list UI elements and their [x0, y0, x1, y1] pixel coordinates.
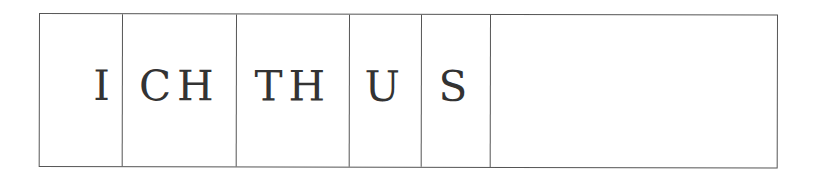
cell-s: S — [422, 15, 491, 167]
cell-text: U — [365, 61, 407, 110]
cell-u: U — [350, 15, 422, 167]
cell-th: TH — [237, 14, 350, 166]
cell-empty — [491, 15, 777, 168]
cell-text: S — [438, 61, 473, 110]
cell-text: TH — [254, 61, 331, 110]
cell-ch: CH — [123, 14, 237, 166]
cell-text: I — [93, 61, 116, 110]
cell-i: I — [40, 14, 123, 166]
cell-text: CH — [139, 61, 220, 110]
letter-strip: I CH TH U S — [39, 13, 778, 169]
